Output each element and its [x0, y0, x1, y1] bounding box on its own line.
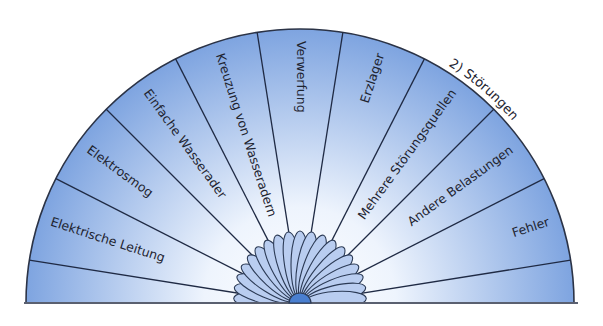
sector-label: Verwerfung	[294, 41, 309, 113]
pendulum-chart: Elektrische LeitungElektrosmogEinfache W…	[0, 0, 603, 326]
